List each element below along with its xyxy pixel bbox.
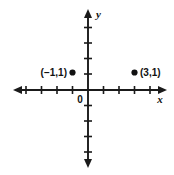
- x-axis-group: [13, 86, 167, 94]
- y-axis-group: [84, 9, 92, 168]
- x-axis-arrow-left-icon: [13, 86, 22, 94]
- data-point-negative-one-one: (−1,1): [41, 67, 76, 78]
- data-point-three-one: (3,1): [131, 67, 160, 78]
- y-axis-label: y: [94, 8, 101, 20]
- y-axis-arrow-up-icon: [84, 9, 92, 18]
- coordinate-plane-figure: y x 0 (−1,1) (3,1): [0, 0, 174, 175]
- y-axis-arrow-down-icon: [84, 159, 92, 168]
- point-marker: [69, 69, 75, 75]
- origin-label: 0: [77, 94, 83, 105]
- x-axis-label: x: [156, 93, 163, 105]
- coordinate-plane-svg: y x 0 (−1,1) (3,1): [0, 0, 174, 175]
- point-label: (3,1): [140, 67, 161, 78]
- point-label: (−1,1): [41, 67, 67, 78]
- point-marker: [131, 69, 137, 75]
